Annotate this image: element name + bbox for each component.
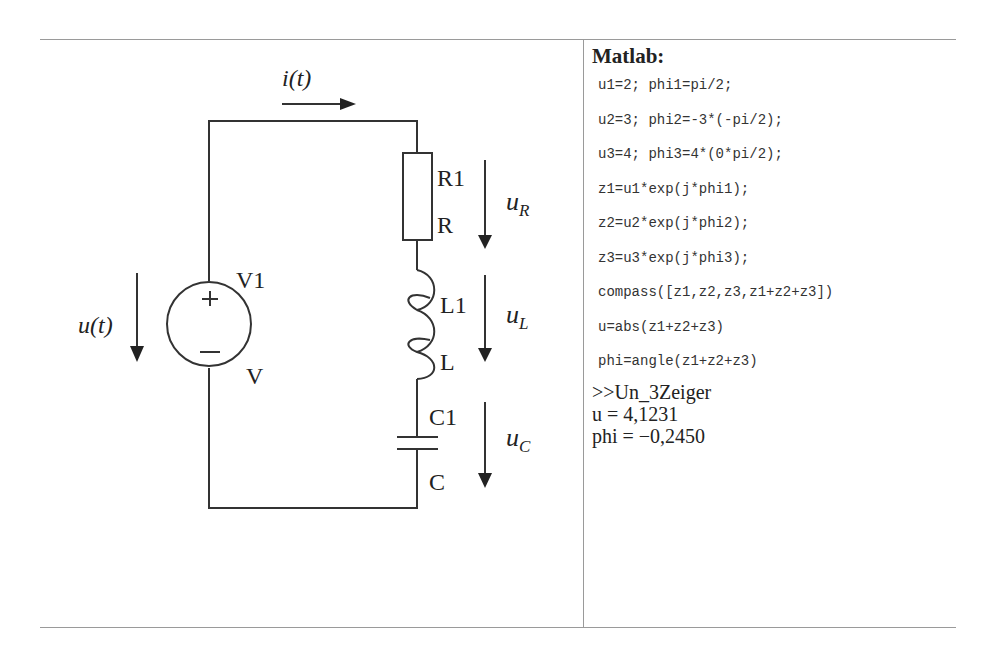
code-line: phi=angle(z1+z2+z3) [598, 351, 952, 381]
code-line: u2=3; phi2=-3*(-pi/2); [598, 110, 952, 145]
source-value: V [246, 363, 264, 389]
code-line: z3=u3*exp(j*phi3); [598, 248, 952, 283]
capacitor-value: C [429, 469, 445, 495]
arrowhead-icon [478, 235, 492, 249]
arrowhead-icon [478, 348, 492, 362]
ur-label: uR [506, 187, 530, 220]
circuit-schematic: i(t) u(t) V1 V R1 R L1 L C1 C uR uL uC [0, 0, 583, 671]
matlab-title: Matlab: [592, 44, 952, 69]
inductor-name: L1 [440, 292, 467, 318]
top-wire [209, 121, 417, 281]
code-line: z2=u2*exp(j*phi2); [598, 213, 952, 248]
capacitor-name: C1 [429, 404, 457, 430]
code-line: compass([z1,z2,z3,z1+z2+z3]) [598, 282, 952, 317]
column-divider [583, 39, 584, 627]
output-u: u = 4,1231 [592, 403, 952, 425]
bottom-wire [209, 368, 417, 508]
inductor-value: L [440, 349, 455, 375]
ul-label: uL [506, 300, 528, 333]
code-line: u3=4; phi3=4*(0*pi/2); [598, 144, 952, 179]
output-phi: phi = −0,2450 [592, 425, 952, 447]
resistor-value: R [437, 212, 453, 238]
code-line: z1=u1*exp(j*phi1); [598, 179, 952, 214]
output-command: >>Un_3Zeiger [592, 381, 952, 403]
arrowhead-icon [478, 473, 492, 488]
matlab-panel: Matlab: u1=2; phi1=pi/2; u2=3; phi2=-3*(… [592, 44, 952, 447]
code-line: u=abs(z1+z2+z3) [598, 317, 952, 352]
resistor-symbol [403, 153, 432, 240]
arrowhead-icon [130, 346, 144, 362]
code-line: u1=2; phi1=pi/2; [598, 75, 952, 110]
rlc-circuit-diagram: i(t) u(t) V1 V R1 R L1 L C1 C uR uL uC [0, 0, 583, 671]
source-voltage-label: u(t) [78, 312, 113, 338]
resistor-name: R1 [437, 165, 465, 191]
current-label: i(t) [282, 65, 311, 91]
uc-label: uC [506, 423, 531, 456]
arrowhead-icon [340, 98, 356, 110]
inductor-symbol [408, 270, 434, 379]
source-name: V1 [236, 267, 265, 293]
